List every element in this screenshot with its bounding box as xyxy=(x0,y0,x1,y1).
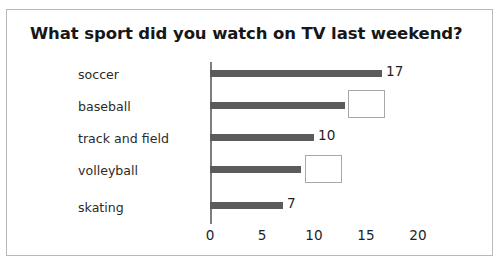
y-axis-line xyxy=(210,62,212,224)
bar-skating xyxy=(210,202,283,209)
bar-value-track-and-field: 10 xyxy=(318,127,335,143)
bar-soccer xyxy=(210,70,382,77)
x-tick-label-10: 10 xyxy=(305,227,322,243)
category-label-skating: skating xyxy=(78,200,124,215)
x-tick-label-0: 0 xyxy=(206,227,215,243)
category-label-baseball: baseball xyxy=(78,99,131,114)
x-tick-label-15: 15 xyxy=(357,227,374,243)
bar-volleyball xyxy=(210,166,301,173)
bar-value-skating: 7 xyxy=(287,195,296,211)
answer-box-baseball[interactable] xyxy=(348,90,385,118)
x-tick-label-20: 20 xyxy=(409,227,426,243)
bar-value-soccer: 17 xyxy=(386,63,403,79)
x-tick-label-5: 5 xyxy=(258,227,267,243)
category-label-track-and-field: track and field xyxy=(78,131,169,146)
page-title: What sport did you watch on TV last week… xyxy=(30,24,463,43)
chart-figure: What sport did you watch on TV last week… xyxy=(0,0,499,267)
category-label-volleyball: volleyball xyxy=(78,163,138,178)
bar-baseball xyxy=(210,102,345,109)
bar-track-and-field xyxy=(210,134,314,141)
category-label-soccer: soccer xyxy=(78,67,119,82)
answer-box-volleyball[interactable] xyxy=(305,155,342,183)
